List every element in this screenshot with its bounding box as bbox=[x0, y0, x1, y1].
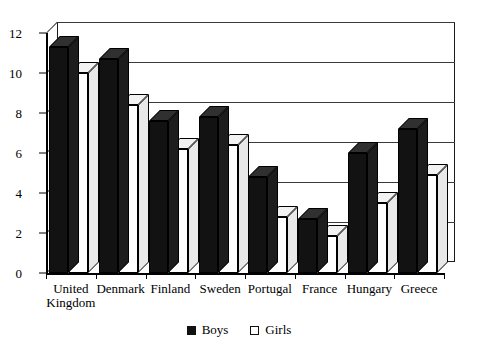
x-tick-mark bbox=[96, 273, 97, 279]
bar-boys-5 bbox=[298, 208, 317, 273]
bar-boys-7 bbox=[398, 118, 417, 273]
legend-label: Girls bbox=[265, 322, 291, 338]
bar-boys-6 bbox=[348, 142, 367, 273]
bar-side-face bbox=[367, 142, 378, 273]
bar-front-face bbox=[248, 177, 267, 273]
y-tick-mark bbox=[39, 73, 46, 74]
bar-side-face bbox=[437, 164, 448, 273]
y-tick-label: 2 bbox=[16, 227, 23, 240]
bar-front-face bbox=[149, 121, 168, 273]
bar-side-face bbox=[188, 138, 199, 273]
bar-side-face bbox=[317, 208, 328, 273]
bar-side-face bbox=[88, 62, 99, 273]
value-axis-line bbox=[46, 33, 48, 273]
bar-boys-2 bbox=[149, 110, 168, 273]
bar-boys-0 bbox=[49, 36, 68, 273]
legend-swatch-filled-square-icon bbox=[187, 326, 196, 335]
bar-side-face bbox=[387, 192, 398, 273]
bar-front-face bbox=[49, 47, 68, 273]
y-tick-mark bbox=[39, 113, 46, 114]
legend-swatch-outlined-square-icon bbox=[250, 326, 259, 335]
bar-boys-3 bbox=[199, 106, 218, 273]
bar-front-face bbox=[99, 59, 118, 273]
bar-side-face bbox=[417, 118, 428, 273]
gridline bbox=[57, 22, 455, 23]
x-tick-mark bbox=[245, 273, 246, 279]
bar-side-face bbox=[118, 48, 129, 273]
bar-side-face bbox=[218, 106, 229, 273]
y-tick-mark bbox=[39, 33, 46, 34]
bar-front-face bbox=[398, 129, 417, 273]
bar-boys-4 bbox=[248, 166, 267, 273]
y-tick-mark bbox=[39, 273, 46, 274]
legend-label: Boys bbox=[202, 322, 229, 338]
bar-front-face bbox=[348, 153, 367, 273]
x-tick-mark bbox=[46, 273, 47, 279]
bar-boys-1 bbox=[99, 48, 118, 273]
x-tick-label: Greece bbox=[388, 282, 450, 296]
y-tick-mark bbox=[39, 193, 46, 194]
bar-side-face bbox=[267, 166, 278, 273]
y-tick-label: 12 bbox=[9, 27, 22, 40]
bar-front-face bbox=[199, 117, 218, 273]
y-axis: 024681012 bbox=[0, 0, 34, 346]
bar-side-face bbox=[68, 36, 79, 273]
y-tick-label: 0 bbox=[16, 267, 23, 280]
y-tick-label: 10 bbox=[9, 67, 22, 80]
bar-front-face bbox=[298, 219, 317, 273]
x-tick-mark bbox=[146, 273, 147, 279]
x-tick-mark bbox=[345, 273, 346, 279]
x-tick-mark bbox=[195, 273, 196, 279]
y-tick-label: 6 bbox=[16, 147, 23, 160]
legend-item-boys: Boys bbox=[187, 322, 229, 338]
bar-side-face bbox=[168, 110, 179, 273]
x-tick-mark-end bbox=[444, 273, 445, 279]
y-tick-mark bbox=[39, 153, 46, 154]
y-tick-label: 4 bbox=[16, 187, 23, 200]
x-tick-mark bbox=[295, 273, 296, 279]
x-tick-mark bbox=[394, 273, 395, 279]
y-tick-mark bbox=[39, 233, 46, 234]
y-tick-label: 8 bbox=[16, 107, 23, 120]
legend-item-girls: Girls bbox=[250, 322, 291, 338]
bar-side-face bbox=[238, 134, 249, 273]
bar-side-face bbox=[287, 206, 298, 273]
bar-chart: 024681012 United KingdomDenmarkFinlandSw… bbox=[0, 0, 478, 346]
chart-legend: BoysGirls bbox=[0, 322, 478, 338]
